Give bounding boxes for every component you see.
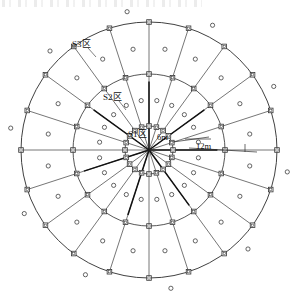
square-marker-r2-a14 bbox=[123, 75, 128, 80]
circle-marker-r1-a3 bbox=[170, 192, 174, 196]
circle-marker-r2-a14 bbox=[131, 47, 135, 51]
circle-marker-r2-a10 bbox=[46, 132, 50, 136]
circle-marker-r2-a17 bbox=[219, 76, 223, 80]
circle-marker-r2-a19 bbox=[248, 132, 252, 136]
circle-marker-r2-a16 bbox=[193, 57, 197, 61]
radial-ray-7 bbox=[74, 150, 149, 254]
square-marker-r2-a9 bbox=[74, 171, 79, 176]
square-marker-r2-a16 bbox=[170, 75, 175, 80]
circle-marker-r1-a12 bbox=[112, 113, 116, 117]
square-marker-r3-a10 bbox=[19, 148, 24, 153]
square-marker-r1-a10 bbox=[123, 148, 128, 153]
square-marker-r3-a5 bbox=[147, 276, 152, 281]
square-marker-r1-a16 bbox=[154, 125, 159, 130]
square-marker-r1-a11 bbox=[124, 140, 129, 145]
square-marker-r3-a7 bbox=[71, 251, 76, 256]
radial-ray-emphasis-6 bbox=[128, 150, 149, 215]
circle-marker-r2-a5 bbox=[131, 249, 135, 253]
square-marker-r2-a7 bbox=[102, 209, 107, 214]
square-marker-r3-a15 bbox=[147, 20, 152, 25]
square-marker-r2-a17 bbox=[191, 86, 196, 91]
square-marker-r2-a13 bbox=[102, 86, 107, 91]
circle-marker-r2-a4 bbox=[163, 249, 167, 253]
circle-marker-r3-a6 bbox=[83, 273, 87, 277]
circle-marker-r2-a3 bbox=[193, 239, 197, 243]
square-marker-r1-a3 bbox=[161, 167, 166, 172]
square-marker-r3-a6 bbox=[107, 269, 112, 274]
circle-marker-r1-a1 bbox=[191, 171, 195, 175]
circle-marker-r2-a7 bbox=[75, 220, 79, 224]
square-marker-r2-a4 bbox=[170, 220, 175, 225]
square-marker-r1-a8 bbox=[127, 162, 132, 167]
circle-marker-r2-a18 bbox=[238, 102, 242, 106]
square-marker-r1-a0 bbox=[171, 148, 176, 153]
circle-marker-r1-a11 bbox=[102, 125, 106, 129]
circle-marker-r2-a2 bbox=[219, 220, 223, 224]
square-marker-r1-a5 bbox=[147, 172, 152, 177]
square-marker-r3-a14 bbox=[107, 26, 112, 31]
square-marker-r3-a19 bbox=[268, 108, 273, 113]
circle-marker-r1-a9 bbox=[98, 156, 102, 160]
square-marker-r2-a2 bbox=[208, 192, 213, 197]
square-marker-r3-a12 bbox=[43, 72, 48, 77]
circle-marker-r1-a14 bbox=[139, 99, 143, 103]
circle-marker-r2-a11 bbox=[56, 102, 60, 106]
circle-marker-r3-a18 bbox=[272, 84, 276, 88]
radial-ray-group bbox=[21, 22, 277, 278]
radial-ray-16 bbox=[149, 28, 189, 150]
square-marker-r2-a18 bbox=[208, 103, 213, 108]
square-marker-r2-a11 bbox=[74, 124, 79, 129]
circle-marker-r2-a9 bbox=[46, 164, 50, 168]
square-marker-r3-a8 bbox=[43, 223, 48, 228]
square-marker-r1-a2 bbox=[166, 162, 171, 167]
radial-ray-1 bbox=[149, 150, 271, 190]
circle-marker-r3-a14 bbox=[125, 10, 129, 14]
circle-marker-r2-a0 bbox=[248, 164, 252, 168]
zone-label-leader-s3 bbox=[88, 48, 96, 57]
circle-marker-r3-a4 bbox=[169, 286, 173, 290]
circle-marker-r2-a13 bbox=[101, 57, 105, 61]
circle-marker-r2-a1 bbox=[238, 194, 242, 198]
square-marker-r3-a0 bbox=[275, 148, 280, 153]
square-marker-r2-a10 bbox=[71, 148, 76, 153]
radial-ray-emphasis-3 bbox=[149, 150, 189, 205]
circle-marker-r3-a16 bbox=[210, 23, 214, 27]
square-marker-r3-a1 bbox=[268, 187, 273, 192]
circle-marker-r1-a15 bbox=[155, 99, 159, 103]
square-marker-r2-a3 bbox=[191, 209, 196, 214]
square-marker-r3-a18 bbox=[250, 72, 255, 77]
radial-ray-8 bbox=[45, 150, 149, 225]
radial-ray-emphasis-9 bbox=[84, 150, 149, 171]
circle-marker-r3-a0 bbox=[285, 170, 289, 174]
square-marker-r3-a9 bbox=[25, 187, 30, 192]
square-marker-r2-a15 bbox=[147, 72, 152, 77]
circle-marker-r1-a0 bbox=[196, 156, 200, 160]
circle-marker-r1-a5 bbox=[139, 197, 143, 201]
figure-root: S3区 S2区 S1区 6m 12m bbox=[0, 0, 291, 301]
circle-marker-r1-a13 bbox=[124, 103, 128, 107]
square-marker-r3-a3 bbox=[222, 251, 227, 256]
square-marker-r3-a2 bbox=[250, 223, 255, 228]
dimension-label-inner: 6m bbox=[157, 133, 168, 142]
square-marker-r1-a15 bbox=[147, 124, 152, 129]
circle-marker-r1-a2 bbox=[182, 183, 186, 187]
square-marker-r2-a6 bbox=[123, 220, 128, 225]
circle-marker-r1-a4 bbox=[155, 197, 159, 201]
circle-marker-r2-a15 bbox=[163, 47, 167, 51]
dimension-label-outer: 12m bbox=[196, 142, 211, 151]
square-marker-r1-a6 bbox=[139, 171, 144, 176]
circle-marker-r3-a8 bbox=[22, 211, 26, 215]
circle-marker-r1-a6 bbox=[124, 192, 128, 196]
square-marker-r1-a1 bbox=[170, 155, 175, 160]
square-marker-r3-a16 bbox=[186, 26, 191, 31]
square-marker-r2-a19 bbox=[219, 124, 224, 129]
radial-zone-diagram bbox=[0, 0, 291, 301]
zone-label-s3: S3区 bbox=[72, 39, 91, 49]
circle-marker-r3-a10 bbox=[9, 126, 13, 130]
circle-marker-r3-a2 bbox=[246, 247, 250, 251]
circle-marker-r2-a6 bbox=[101, 239, 105, 243]
square-marker-r1-a7 bbox=[133, 167, 138, 172]
circle-marker-r1-a16 bbox=[170, 103, 174, 107]
circle-marker-r2-a12 bbox=[75, 76, 79, 80]
radial-ray-2 bbox=[149, 150, 253, 225]
